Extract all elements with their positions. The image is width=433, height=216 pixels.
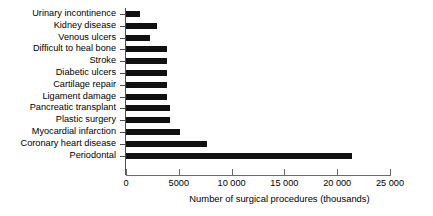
- y-axis-tick: [120, 156, 125, 157]
- y-axis-tick: [120, 26, 125, 27]
- category-label: Plastic surgery: [56, 114, 116, 126]
- category-label: Stroke: [89, 55, 116, 67]
- bar: [126, 46, 167, 52]
- y-axis-tick: [120, 61, 125, 62]
- category-label: Myocardial infarction: [32, 126, 116, 138]
- y-axis-tick: [120, 97, 125, 98]
- bar: [126, 105, 170, 111]
- bar: [126, 129, 180, 135]
- bar: [126, 82, 167, 88]
- x-axis-tick-label: 25 000: [376, 178, 404, 189]
- bar: [126, 153, 352, 159]
- category-label: Diabetic ulcers: [56, 67, 116, 79]
- category-label: Periodontal: [70, 150, 116, 162]
- x-axis-tick: [232, 169, 233, 175]
- x-axis-title-text: Number of surgical procedures (thousands…: [189, 193, 369, 204]
- bar: [126, 70, 167, 76]
- bar: [126, 11, 140, 17]
- y-axis-tick: [120, 14, 125, 15]
- x-axis-tick: [126, 169, 127, 175]
- category-label: Difficult to heal bone: [33, 43, 116, 55]
- category-axis-labels: Urinary incontinenceKidney diseaseVenous…: [0, 8, 120, 174]
- y-axis-tick: [120, 132, 125, 133]
- x-axis-tick-label: 10 000: [218, 178, 246, 189]
- bar: [126, 94, 167, 100]
- category-label: Urinary incontinence: [32, 8, 116, 20]
- x-axis-title: Number of surgical procedures (thousands…: [0, 193, 433, 204]
- y-axis-tick: [120, 144, 125, 145]
- bar-chart: Urinary incontinenceKidney diseaseVenous…: [0, 0, 433, 216]
- y-axis-tick: [120, 108, 125, 109]
- plot-area: [126, 8, 390, 174]
- x-axis-tick-label: 5000: [169, 178, 189, 189]
- category-label: Kidney disease: [54, 20, 116, 32]
- x-axis-tick: [284, 169, 285, 175]
- y-axis-tick: [120, 38, 125, 39]
- x-axis-line: [126, 175, 391, 176]
- y-axis-tick: [120, 120, 125, 121]
- category-label: Cartilage repair: [53, 79, 116, 91]
- x-axis-tick-label: 20 000: [323, 178, 351, 189]
- y-axis-tick: [120, 49, 125, 50]
- category-label: Ligament damage: [42, 91, 116, 103]
- x-axis-tick-label: 15 000: [270, 178, 298, 189]
- bar: [126, 23, 157, 29]
- bar: [126, 117, 170, 123]
- y-axis-tick: [120, 73, 125, 74]
- y-axis-tick: [120, 85, 125, 86]
- bar: [126, 58, 167, 64]
- x-axis-tick-label: 0: [123, 178, 128, 189]
- bar: [126, 141, 207, 147]
- y-axis-line: [125, 8, 126, 175]
- x-axis-tick: [337, 169, 338, 175]
- bar: [126, 35, 150, 41]
- category-label: Coronary heart disease: [21, 138, 117, 150]
- category-label: Venous ulcers: [58, 32, 116, 44]
- x-axis-tick: [390, 169, 391, 175]
- x-axis-tick: [179, 169, 180, 175]
- category-label: Pancreatic transplant: [30, 102, 116, 114]
